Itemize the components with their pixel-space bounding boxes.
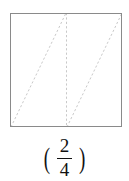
fraction-numerator: 2 bbox=[58, 136, 72, 155]
open-paren: ( bbox=[44, 143, 50, 172]
square-fill bbox=[11, 14, 122, 127]
partitioned-square-figure bbox=[0, 0, 129, 135]
close-paren: ) bbox=[79, 143, 85, 172]
fraction-denominator: 4 bbox=[58, 160, 72, 179]
fraction-two-fourths: 2 4 bbox=[57, 136, 72, 179]
worksheet-fraction-figure: ( 2 4 ) bbox=[0, 0, 129, 181]
fraction-caption: ( 2 4 ) bbox=[0, 134, 129, 181]
square-diagram-svg bbox=[0, 0, 129, 135]
